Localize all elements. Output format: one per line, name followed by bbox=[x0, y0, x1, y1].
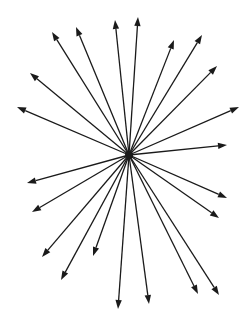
arrow-shaft bbox=[37, 79, 129, 155]
arrowhead-icon bbox=[61, 271, 68, 280]
arrow-shaft bbox=[129, 155, 219, 194]
arrowhead-icon bbox=[229, 107, 239, 114]
arrowhead-icon bbox=[195, 35, 202, 44]
arrow-shaft bbox=[129, 155, 214, 287]
arrow-shaft bbox=[48, 155, 129, 250]
arrowhead-icon bbox=[134, 17, 140, 26]
arrowhead-icon bbox=[168, 40, 174, 50]
arrowhead-icon bbox=[218, 143, 227, 149]
arrowhead-icon bbox=[217, 191, 227, 198]
center-hub bbox=[125, 151, 133, 159]
arrow-shaft bbox=[96, 155, 129, 248]
arrow-group bbox=[17, 17, 239, 309]
arrow-shaft bbox=[129, 72, 211, 155]
arrowhead-icon bbox=[27, 178, 37, 184]
arrow-shaft bbox=[129, 155, 148, 295]
arrowhead-icon bbox=[145, 295, 151, 304]
arrowhead-icon bbox=[52, 32, 59, 41]
arrowhead-icon bbox=[93, 246, 99, 256]
arrowhead-icon bbox=[115, 300, 121, 309]
radial-arrow-diagram bbox=[0, 0, 247, 328]
arrow-shaft bbox=[119, 155, 129, 300]
arrow-shaft bbox=[129, 155, 194, 286]
arrow-shaft bbox=[57, 40, 129, 155]
arrowhead-icon bbox=[113, 20, 119, 29]
arrowhead-icon bbox=[191, 285, 198, 294]
arrow-shaft bbox=[129, 155, 212, 213]
arrow-shaft bbox=[36, 155, 129, 181]
arrowhead-icon bbox=[76, 27, 82, 37]
arrowhead-icon bbox=[210, 210, 219, 218]
arrow-shaft bbox=[129, 43, 197, 155]
arrowhead-icon bbox=[17, 107, 27, 113]
arrow-shaft bbox=[129, 146, 218, 155]
arrow-shaft bbox=[65, 155, 129, 272]
arrowhead-icon bbox=[32, 205, 41, 212]
arrow-shaft bbox=[40, 155, 129, 207]
arrowhead-icon bbox=[211, 286, 219, 295]
